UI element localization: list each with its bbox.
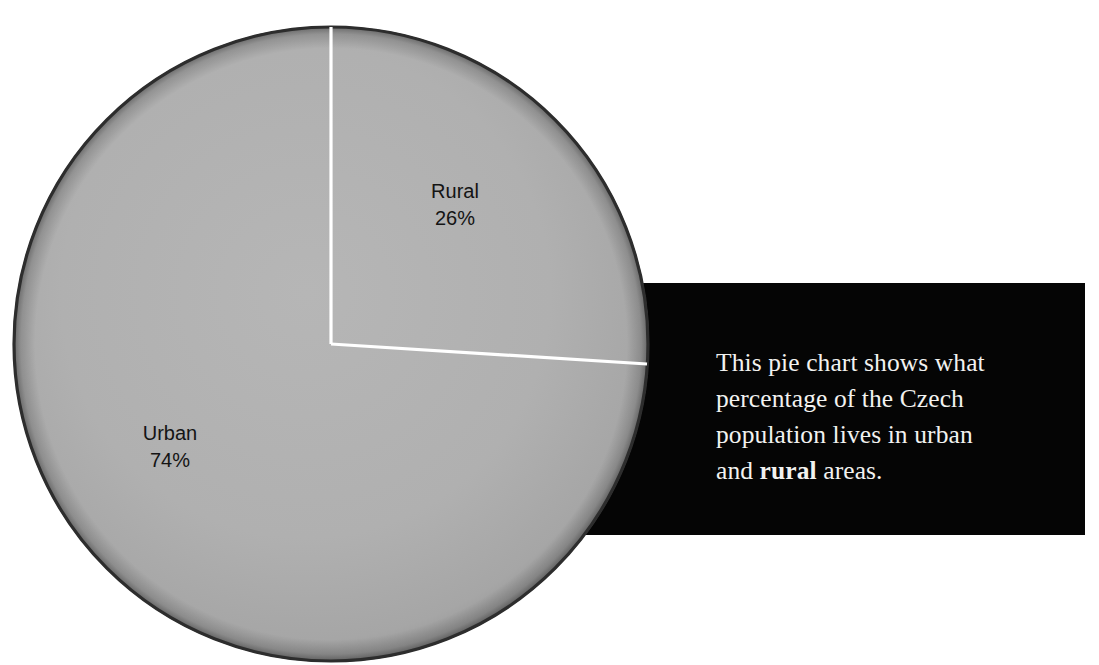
slice-label-rural-percent: 26% <box>395 205 515 232</box>
caption-line-4-prefix: and <box>716 456 760 485</box>
caption-text: This pie chart shows what percentage of … <box>716 345 1046 489</box>
slice-label-rural-name: Rural <box>431 180 479 202</box>
slice-label-urban-name: Urban <box>143 422 197 444</box>
caption-line-1: This pie chart shows what <box>716 345 1046 381</box>
pie-chart <box>10 24 652 665</box>
pie-chart-svg <box>10 24 652 665</box>
slice-label-rural: Rural 26% <box>395 178 515 232</box>
slice-label-urban-percent: 74% <box>110 447 230 474</box>
caption-emphasis-rural: rural <box>760 456 817 485</box>
caption-line-4-suffix: areas. <box>817 456 883 485</box>
slice-label-urban: Urban 74% <box>110 420 230 474</box>
top-margin <box>0 0 1099 24</box>
caption-line-2: percentage of the Czech <box>716 381 1046 417</box>
caption-line-3: population lives in urban <box>716 417 1046 453</box>
